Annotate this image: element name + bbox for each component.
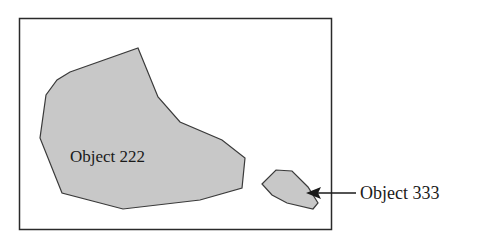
object-333-label: Object 333 (360, 183, 439, 203)
object-222-label: Object 222 (70, 147, 145, 166)
object-333-region (262, 170, 318, 209)
diagram-canvas: Object 222 Object 333 (0, 0, 489, 240)
object-222-region (40, 48, 245, 209)
